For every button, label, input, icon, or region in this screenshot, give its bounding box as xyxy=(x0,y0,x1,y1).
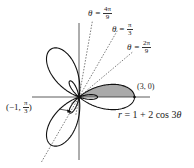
point-label-3-0: (3, 0) xyxy=(137,83,154,91)
ray-label-prefix: θ = xyxy=(112,24,125,34)
ray-label-pi-3: θ = π3 xyxy=(112,22,133,37)
ray-label-prefix: θ = xyxy=(88,8,101,18)
denominator: 3 xyxy=(127,30,133,37)
fraction: π3 xyxy=(127,22,133,37)
equation-lhs: r xyxy=(118,109,122,120)
ray-label-2pi-9: θ = 2π9 xyxy=(127,40,151,55)
denominator: 9 xyxy=(142,48,151,55)
equation-rhs: = 1 + 2 cos 3 xyxy=(124,109,176,120)
fraction: 4π9 xyxy=(103,6,112,21)
ray-label-prefix: θ = xyxy=(127,42,140,52)
point-label-neg1-pi-3: (−1, π3) xyxy=(6,100,32,115)
denominator: 9 xyxy=(103,14,112,21)
equation-label: r = 1 + 2 cos 3θ xyxy=(118,110,181,120)
fraction: 2π9 xyxy=(142,40,151,55)
polar-plot xyxy=(0,0,194,168)
point-3-0 xyxy=(133,96,136,99)
ray-label-4pi-9: θ = 4π9 xyxy=(88,6,112,21)
equation-theta: θ xyxy=(177,109,182,120)
label-prefix: (−1, xyxy=(6,102,21,112)
label-suffix: ) xyxy=(29,102,32,112)
